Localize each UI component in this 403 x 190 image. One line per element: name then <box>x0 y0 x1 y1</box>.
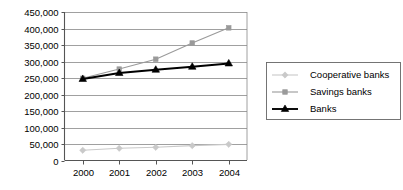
y-tick-label: 400,000 <box>24 24 58 35</box>
y-tick-label: 450,000 <box>24 7 58 18</box>
y-tick-label: 150,000 <box>24 106 58 117</box>
x-tick-label: 2002 <box>146 167 167 178</box>
data-point-marker <box>189 143 195 149</box>
chart-legend: Cooperative banksSavings banksBanks <box>267 63 401 120</box>
data-point-marker <box>190 41 195 46</box>
line-chart: 050,000100,000150,000200,000250,000300,0… <box>0 0 403 190</box>
data-point-marker <box>153 57 158 62</box>
data-point-marker <box>226 26 231 31</box>
y-tick-label: 300,000 <box>24 57 58 68</box>
data-series <box>79 26 233 154</box>
y-tick-label: 0 <box>53 156 58 167</box>
x-axis-tick-marks <box>84 161 230 165</box>
series-cooperative-banks <box>80 141 232 153</box>
y-axis-tick-labels: 050,000100,000150,000200,000250,000300,0… <box>24 7 58 167</box>
y-tick-label: 50,000 <box>29 139 58 150</box>
data-point-marker <box>80 147 86 153</box>
legend-label: Savings banks <box>310 86 372 97</box>
y-tick-label: 350,000 <box>24 40 58 51</box>
chart-canvas: 050,000100,000150,000200,000250,000300,0… <box>0 0 403 190</box>
x-tick-label: 2003 <box>182 167 203 178</box>
legend-label: Banks <box>310 103 337 114</box>
data-point-marker <box>153 144 159 150</box>
y-tick-label: 200,000 <box>24 90 58 101</box>
legend-label: Cooperative banks <box>310 69 389 80</box>
data-point-marker <box>226 141 232 147</box>
y-tick-label: 250,000 <box>24 73 58 84</box>
y-tick-label: 100,000 <box>24 123 58 134</box>
data-point-marker <box>116 145 122 151</box>
gridlines <box>65 13 248 145</box>
x-axis-tick-labels: 20002001200220032004 <box>73 167 240 178</box>
data-point-marker <box>283 90 288 95</box>
x-tick-label: 2001 <box>109 167 130 178</box>
x-tick-label: 2000 <box>73 167 94 178</box>
x-tick-label: 2004 <box>219 167 240 178</box>
